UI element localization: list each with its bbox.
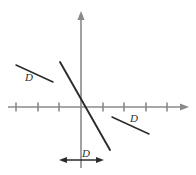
label-lower-right-D: D xyxy=(129,112,138,124)
x-axis-arrowhead-icon xyxy=(180,103,189,110)
diagram-canvas: D D D xyxy=(0,0,196,175)
label-upper-left-D: D xyxy=(24,71,33,83)
measure-arrow-left-head-icon xyxy=(59,157,67,163)
y-axis-arrowhead-icon xyxy=(77,11,84,20)
measure-arrow-right-head-icon xyxy=(96,157,104,163)
coordinate-plane-figure: D D D xyxy=(0,0,196,175)
upper-left-reference-segment xyxy=(16,65,53,82)
label-measure-arrow-D: D xyxy=(81,147,90,159)
